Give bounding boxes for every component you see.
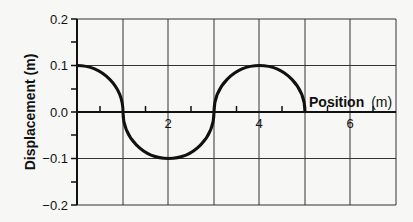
- displacement-position-chart: 0.2 0.1 0.0 −0.1 −0.2 2 4 6 Position (m)…: [0, 0, 413, 222]
- x-axis-label-unit: (m): [371, 94, 392, 110]
- x-tick-label: 6: [346, 116, 353, 131]
- y-tick-label: −0.1: [42, 151, 68, 166]
- x-tick-label: 4: [255, 116, 262, 131]
- x-tick-labels: 2 4 6: [164, 116, 353, 131]
- y-axis-label: Displacement (m): [22, 54, 38, 171]
- y-tick-label: 0.1: [50, 58, 68, 73]
- x-tick-label: 2: [164, 116, 171, 131]
- y-tick-label: 0.2: [50, 12, 68, 27]
- y-tick-label: 0.0: [50, 105, 68, 120]
- y-tick-labels: 0.2 0.1 0.0 −0.1 −0.2: [42, 12, 68, 213]
- y-tick-label: −0.2: [42, 198, 68, 213]
- x-axis-label-name: Position: [309, 94, 364, 110]
- x-axis-label: Position (m): [309, 94, 392, 110]
